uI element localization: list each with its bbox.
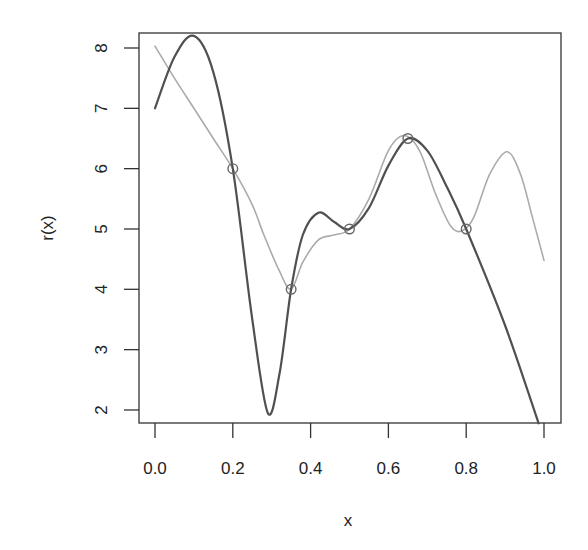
- y-tick-label: 2: [92, 405, 111, 414]
- x-tick-label: 0.0: [143, 459, 167, 478]
- y-tick-label: 3: [92, 345, 111, 354]
- x-tick-label: 0.4: [299, 459, 323, 478]
- y-tick-label: 7: [92, 104, 111, 113]
- x-tick-label: 0.6: [377, 459, 401, 478]
- y-tick-label: 8: [92, 43, 111, 52]
- x-tick-label: 0.8: [454, 459, 478, 478]
- y-tick-label: 4: [92, 285, 111, 294]
- y-axis-label: r(x): [38, 215, 57, 240]
- chart: 0.00.20.40.60.81.0 2345678 x r(x): [0, 0, 588, 550]
- y-tick-label: 5: [92, 224, 111, 233]
- x-tick-label: 0.2: [221, 459, 245, 478]
- x-axis-label: x: [344, 511, 353, 530]
- y-tick-label: 6: [92, 164, 111, 173]
- x-tick-label: 1.0: [532, 459, 556, 478]
